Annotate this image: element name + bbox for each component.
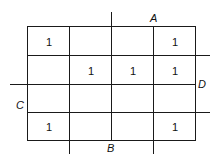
cell-r0-c1	[70, 27, 112, 56]
cell-r3-c2	[112, 113, 154, 140]
label-d: D	[198, 78, 206, 90]
cell-r2-c1	[70, 85, 112, 114]
cell-r0-c2	[112, 27, 154, 56]
cell-r2-c3	[154, 85, 196, 114]
cell-r1-c0	[28, 56, 70, 85]
cell-r2-c0	[28, 85, 70, 114]
cell-r3-c1	[70, 113, 112, 140]
cell-r3-c0: 1	[28, 113, 70, 140]
cell-r3-c3: 1	[154, 113, 196, 140]
cell-r1-c3: 1	[154, 56, 196, 85]
label-a: A	[150, 12, 157, 24]
cell-r1-c2: 1	[112, 56, 154, 85]
cell-r2-c2	[112, 85, 154, 114]
cell-r1-c1: 1	[70, 56, 112, 85]
cell-r0-c0: 1	[28, 27, 70, 56]
label-b: B	[107, 142, 114, 154]
cell-r0-c3: 1	[154, 27, 196, 56]
label-c: C	[16, 99, 24, 111]
